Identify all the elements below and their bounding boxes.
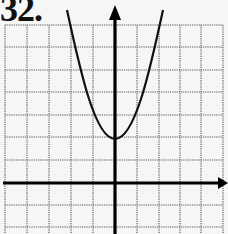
- graph-figure: 32.: [0, 0, 228, 234]
- x-axis-arrow-icon: [218, 177, 228, 189]
- coordinate-plane: [0, 0, 228, 234]
- y-axis-arrow-icon: [109, 5, 121, 20]
